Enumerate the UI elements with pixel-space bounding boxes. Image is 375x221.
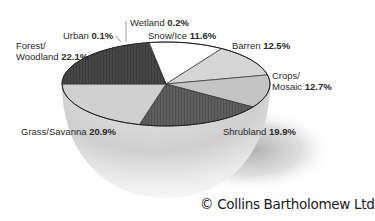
label-barren: Barren 12.5%	[232, 40, 290, 51]
label-forest-woodland: Forest/ Woodland 22.1%	[16, 40, 88, 62]
copyright-credit: © Collins Bartholomew Ltd	[200, 196, 375, 212]
label-snow-ice: Snow/Ice 11.6%	[148, 30, 216, 41]
label-grass-savanna: Grass/Savanna 20.9%	[21, 126, 116, 137]
label-wetland: Wetland 0.2%	[130, 17, 189, 28]
label-crops-mosaic: Crops/ Mosaic 12.7%	[272, 70, 332, 92]
label-shrubland: Shrubland 19.9%	[223, 126, 296, 137]
